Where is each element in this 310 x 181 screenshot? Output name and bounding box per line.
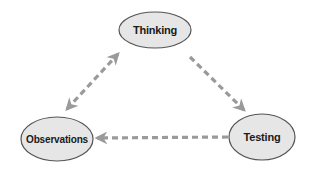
arrow-thinking-to-testing: [190, 57, 244, 110]
node-observations-label: Observations: [26, 133, 88, 145]
arrow-testing-to-observations: [97, 137, 228, 138]
diagram-canvas: Thinking Testing Observations: [0, 0, 310, 181]
node-thinking: Thinking: [119, 12, 191, 48]
arrow-observations-thinking-bidirectional: [67, 54, 118, 109]
node-observations: Observations: [21, 117, 93, 161]
node-testing-label: Testing: [244, 131, 281, 143]
cycle-diagram: Thinking Testing Observations: [0, 0, 310, 181]
node-thinking-label: Thinking: [133, 24, 177, 36]
node-testing: Testing: [229, 114, 295, 160]
